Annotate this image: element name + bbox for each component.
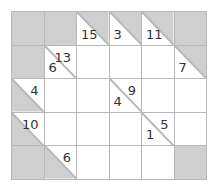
clue-cell: 10 — [12, 113, 45, 147]
entry-cell[interactable] — [110, 113, 143, 147]
clue-cell: 15 — [142, 113, 175, 147]
across-clue: 4 — [30, 84, 38, 97]
clue-cell: 15 — [77, 12, 110, 46]
entry-cell[interactable] — [175, 113, 208, 147]
entry-cell[interactable] — [45, 79, 78, 113]
entry-cell[interactable] — [142, 146, 175, 180]
entry-cell[interactable] — [142, 46, 175, 80]
across-clue: 10 — [22, 118, 39, 131]
clue-cell: 6 — [45, 146, 78, 180]
down-clue: 15 — [81, 28, 98, 41]
entry-cell[interactable] — [110, 46, 143, 80]
diagonal-divider — [45, 146, 77, 179]
down-clue: 3 — [114, 28, 122, 41]
down-clue: 4 — [114, 95, 122, 108]
block-cell — [175, 12, 208, 46]
across-clue: 5 — [160, 118, 168, 131]
kakuro-grid: 15311613744910156 — [11, 11, 207, 180]
entry-cell[interactable] — [142, 79, 175, 113]
entry-cell[interactable] — [175, 79, 208, 113]
entry-cell[interactable] — [45, 113, 78, 147]
across-clue: 9 — [128, 84, 136, 97]
clue-cell: 11 — [142, 12, 175, 46]
clue-cell: 613 — [45, 46, 78, 80]
entry-cell[interactable] — [77, 146, 110, 180]
across-clue: 6 — [63, 151, 71, 164]
block-cell — [175, 146, 208, 180]
entry-cell[interactable] — [77, 113, 110, 147]
clue-cell: 3 — [110, 12, 143, 46]
entry-cell[interactable] — [77, 79, 110, 113]
entry-cell[interactable] — [110, 146, 143, 180]
across-clue: 13 — [54, 51, 71, 64]
clue-cell: 4 — [12, 79, 45, 113]
block-cell — [12, 146, 45, 180]
block-cell — [12, 46, 45, 80]
diagonal-divider — [12, 79, 44, 112]
block-cell — [45, 12, 78, 46]
block-cell — [12, 12, 45, 46]
down-clue: 11 — [146, 28, 163, 41]
down-clue: 1 — [146, 128, 154, 141]
clue-cell: 7 — [175, 46, 208, 80]
down-clue: 7 — [179, 61, 187, 74]
entry-cell[interactable] — [77, 46, 110, 80]
clue-cell: 49 — [110, 79, 143, 113]
